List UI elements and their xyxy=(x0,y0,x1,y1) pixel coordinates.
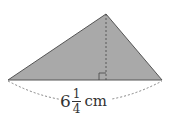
base-length-fraction: 1 4 xyxy=(72,88,82,115)
base-length-whole: 6 xyxy=(60,93,71,110)
fraction-denominator: 4 xyxy=(73,102,81,115)
fraction-numerator: 1 xyxy=(72,88,82,102)
triangle xyxy=(8,14,162,80)
base-length-unit: cm xyxy=(84,94,107,109)
base-length-label: 6 1 4 cm xyxy=(60,84,112,118)
